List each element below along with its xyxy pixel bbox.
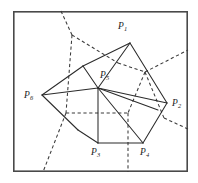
bisector-lower-left <box>43 113 66 172</box>
edge-A-P1 <box>83 43 130 66</box>
vertex-label-base: P <box>118 21 124 31</box>
bisector-right-down <box>128 72 145 113</box>
solid-polygon-edges <box>42 43 167 143</box>
vertex-label-p2: P2 <box>172 99 181 109</box>
vertex-label-p4: P4 <box>140 148 149 158</box>
vertex-label-base: P <box>140 147 146 157</box>
bisector-upper-left <box>61 11 72 35</box>
vertex-label-subscript: 2 <box>178 102 181 109</box>
vertex-label-p1: P1 <box>118 22 127 32</box>
vertex-label-p3: P3 <box>91 148 100 158</box>
vertex-label-subscript: 6 <box>30 94 33 101</box>
geometric-figure: P1P2P3P4P5P6 <box>0 0 198 183</box>
vertex-label-p5: P5 <box>100 71 109 81</box>
bisector-right-out <box>145 50 188 72</box>
vertex-label-subscript: 5 <box>106 74 109 81</box>
vertex-label-base: P <box>91 147 97 157</box>
vertex-label-p6: P6 <box>24 91 33 101</box>
bisector-upper-right <box>72 35 118 63</box>
edge-P5-A <box>83 66 98 88</box>
vertex-label-subscript: 3 <box>97 151 100 158</box>
vertex-label-base: P <box>172 98 178 108</box>
vertex-label-base: P <box>100 70 106 80</box>
vertex-label-base: P <box>24 90 30 100</box>
bisector-node-right <box>118 63 145 72</box>
edge-B-P3 <box>78 130 98 143</box>
vertex-label-subscript: 1 <box>124 25 127 32</box>
bisector-far-right <box>164 118 188 129</box>
bisector-right-lower <box>145 72 164 118</box>
vertex-label-subscript: 4 <box>146 151 149 158</box>
